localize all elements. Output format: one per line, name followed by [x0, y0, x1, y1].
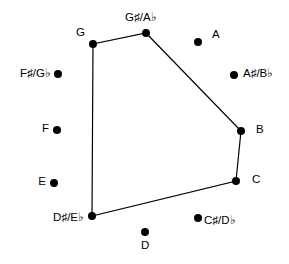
pitch-class-dot-a [194, 38, 202, 46]
pitch-class-dot-fsharp-gb [54, 70, 62, 78]
pitch-class-dots [50, 29, 245, 236]
pitch-class-dot-asharp-bb [230, 71, 238, 79]
pitch-class-label-b: B [256, 124, 264, 136]
pitch-class-dot-d [141, 228, 149, 236]
pitch-class-set-polygon [92, 33, 241, 216]
pitch-class-dot-dsharp-eb [88, 212, 96, 220]
pitch-class-label-dsharp-eb: D♯/E♭ [53, 212, 84, 224]
pitch-class-dot-f [53, 126, 61, 134]
pitch-class-dot-c [232, 177, 240, 185]
pitch-class-label-g: G [76, 27, 85, 39]
pitch-class-label-fsharp-gb: F♯/G♭ [20, 68, 51, 80]
pitch-class-dot-b [237, 127, 245, 135]
pitch-class-label-gsharp-ab: G♯/A♭ [125, 12, 157, 24]
pitch-class-label-csharp-db: C♯/D♭ [204, 215, 236, 227]
pitch-class-label-f: F [42, 123, 49, 135]
pitch-class-circle-figure: G♯/A♭AA♯/B♭BCC♯/D♭DD♯/E♭EFF♯/G♭G [0, 0, 289, 264]
pitch-class-label-a: A [212, 29, 220, 41]
pitch-class-label-c: C [252, 174, 260, 186]
pitch-class-label-d: D [141, 240, 149, 252]
pitch-class-label-asharp-bb: A♯/B♭ [243, 68, 273, 80]
pitch-class-dot-g [89, 40, 97, 48]
pitch-class-label-e: E [38, 176, 46, 188]
pitch-class-dot-gsharp-ab [142, 29, 150, 37]
pitch-class-dot-e [50, 179, 58, 187]
pitch-class-dot-csharp-db [194, 214, 202, 222]
